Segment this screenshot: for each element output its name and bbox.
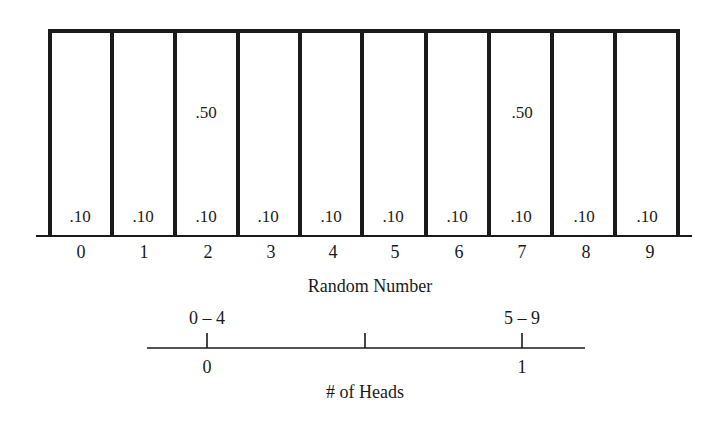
category-label: 1 [140, 243, 149, 261]
group-prob-label-0-4: .50 [195, 104, 216, 121]
bar-prob-label: .10 [510, 208, 531, 225]
heads-axis [147, 333, 585, 348]
bar-prob-label: .10 [257, 208, 278, 225]
bars-outline [48, 31, 680, 236]
range-label-0-4: 0 – 4 [189, 309, 225, 327]
random-number-heads-diagram: .50 .50 .10 .10 .10 .10 .10 .10 .10 .10 … [0, 0, 727, 421]
category-label: 0 [77, 243, 86, 261]
category-label: 2 [204, 243, 213, 261]
heads-tick-0: 0 [203, 358, 212, 376]
heads-axis-label: # of Heads [326, 383, 404, 401]
category-label: 7 [518, 243, 527, 261]
heads-tick-1: 1 [518, 358, 527, 376]
bar-prob-label: .10 [69, 208, 90, 225]
category-label: 6 [455, 243, 464, 261]
bar-prob-label: .10 [446, 208, 467, 225]
category-label: 9 [646, 243, 655, 261]
bar-prob-label: .10 [573, 208, 594, 225]
bar-prob-label: .10 [132, 208, 153, 225]
range-label-5-9: 5 – 9 [504, 309, 540, 327]
bar-prob-label: .10 [636, 208, 657, 225]
bar-prob-label: .10 [195, 208, 216, 225]
bar-prob-label: .10 [382, 208, 403, 225]
diagram-lines [0, 0, 727, 421]
category-label: 4 [329, 243, 338, 261]
group-prob-label-5-9: .50 [511, 104, 532, 121]
category-label: 8 [582, 243, 591, 261]
x-axis-label: Random Number [308, 277, 432, 295]
bar-prob-label: .10 [320, 208, 341, 225]
category-label: 3 [267, 243, 276, 261]
category-label: 5 [391, 243, 400, 261]
